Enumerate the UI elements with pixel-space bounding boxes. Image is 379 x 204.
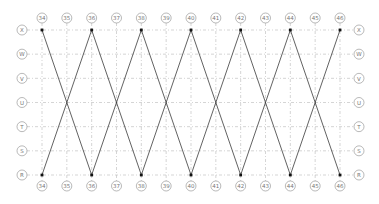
node-marker — [339, 29, 342, 32]
column-35-bottom-label: 35 — [63, 183, 70, 189]
node-marker — [190, 174, 193, 177]
column-42-label: 42 — [237, 15, 244, 21]
column-39-bottom-label: 39 — [163, 183, 170, 189]
column-40-label: 40 — [188, 15, 195, 21]
column-38-label: 38 — [138, 15, 145, 21]
row-W-label: W — [19, 51, 25, 57]
node-marker — [90, 174, 93, 177]
column-45-label: 45 — [312, 15, 319, 21]
column-46-bottom-label: 46 — [337, 183, 344, 189]
bracing-drawing: 3434353536363737383839394040414142424343… — [0, 0, 379, 204]
node-marker — [140, 29, 143, 32]
column-45-bottom-label: 45 — [312, 183, 319, 189]
row-V-label: V — [20, 76, 24, 82]
column-40-bottom-label: 40 — [188, 183, 195, 189]
column-44-label: 44 — [287, 15, 294, 21]
row-S-right-label: S — [357, 148, 361, 154]
column-41-bottom-label: 41 — [212, 183, 219, 189]
row-T-right-label: T — [356, 124, 361, 130]
grid-diagram: 3434353536363737383839394040414142424343… — [0, 0, 379, 204]
row-T-label: T — [19, 124, 24, 130]
column-36-bottom-label: 36 — [88, 183, 95, 189]
column-39-label: 39 — [163, 15, 170, 21]
node-marker — [41, 174, 44, 177]
row-X-right-label: X — [357, 27, 361, 33]
column-42-bottom-label: 42 — [237, 183, 244, 189]
node-marker — [41, 29, 44, 32]
column-44-bottom-label: 44 — [287, 183, 294, 189]
column-46-label: 46 — [337, 15, 344, 21]
column-38-bottom-label: 38 — [138, 183, 145, 189]
node-marker — [289, 29, 292, 32]
node-marker — [339, 174, 342, 177]
row-R-label: R — [20, 172, 24, 178]
node-marker — [90, 29, 93, 32]
row-R-right-label: R — [357, 172, 361, 178]
row-X-label: X — [20, 27, 24, 33]
row-U-right-label: U — [357, 100, 361, 106]
column-43-label: 43 — [262, 15, 269, 21]
row-S-label: S — [20, 148, 24, 154]
column-43-bottom-label: 43 — [262, 183, 269, 189]
column-35-label: 35 — [63, 15, 70, 21]
column-37-label: 37 — [113, 15, 120, 21]
row-W-right-label: W — [356, 51, 362, 57]
column-41-label: 41 — [212, 15, 219, 21]
column-36-label: 36 — [88, 15, 95, 21]
node-marker — [289, 174, 292, 177]
row-U-label: U — [20, 100, 24, 106]
row-V-right-label: V — [357, 76, 361, 82]
node-marker — [239, 174, 242, 177]
column-37-bottom-label: 37 — [113, 183, 120, 189]
column-34-label: 34 — [39, 15, 46, 21]
column-34-bottom-label: 34 — [39, 183, 46, 189]
node-marker — [140, 174, 143, 177]
node-marker — [190, 29, 193, 32]
node-marker — [239, 29, 242, 32]
